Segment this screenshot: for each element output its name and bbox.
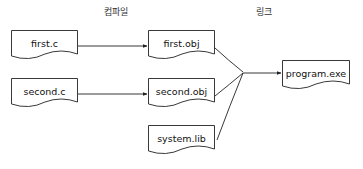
stage-label-compile: 컴파일 [104,5,128,18]
node-first-obj: first.obj [148,30,215,63]
node-system-lib: system.lib [148,125,215,158]
node-label: program.exe [282,69,350,79]
node-label: second.c [11,87,78,97]
compile-link-diagram: 컴파일 링크 first.c second.c first.obj second… [0,0,363,169]
node-program-exe: program.exe [282,60,350,93]
node-label: first.obj [148,39,215,49]
edge-system-lib-to-junction [217,73,243,140]
node-second-c: second.c [11,78,78,111]
node-label: second.obj [148,87,215,97]
node-label: first.c [11,39,78,49]
edge-first-obj-to-junction [215,48,243,72]
node-second-obj: second.obj [148,78,215,111]
node-label: system.lib [148,134,215,144]
stage-label-link: 링크 [256,5,272,18]
node-first-c: first.c [11,30,78,63]
